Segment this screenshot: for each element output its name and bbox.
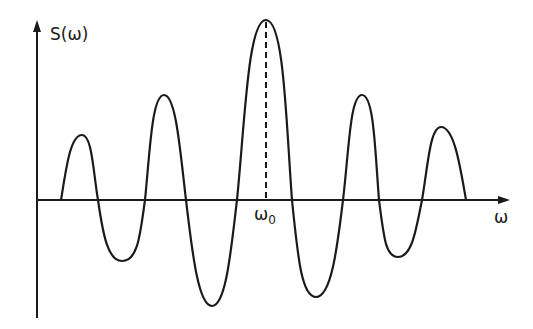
spectrum-diagram xyxy=(0,0,533,329)
omega0-label: ω0 xyxy=(254,206,276,223)
y-axis-arrowhead-icon xyxy=(33,20,41,32)
x-axis-arrowhead-icon xyxy=(498,196,510,204)
x-axis-label: ω xyxy=(494,209,508,226)
spectrum-curve xyxy=(61,20,466,306)
omega0-subscript: 0 xyxy=(268,213,276,227)
y-axis-label: S(ω) xyxy=(50,26,88,43)
omega0-symbol: ω xyxy=(254,204,268,224)
